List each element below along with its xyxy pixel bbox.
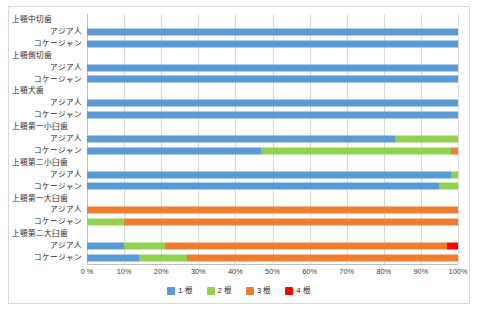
category-label: コケージャン [9,109,87,121]
stacked-bar [87,64,458,71]
bar-segment-4 [447,242,458,249]
bar-segment-1 [87,28,458,35]
stacked-bar [87,112,458,119]
stacked-bar [87,242,458,249]
bar-row: コケージャン [87,216,458,228]
plot-area: 上顎中切歯アジア人コケージャン上顎側切歯アジア人コケージャン上顎犬歯アジア人コケ… [87,14,458,264]
category-label: アジア人 [9,204,87,216]
stacked-bar [87,207,458,214]
legend-item-2[interactable]: 2 根 [207,287,232,295]
bar-row: コケージャン [87,180,458,192]
bar-row: コケージャン [87,73,458,85]
bar-row: アジア人 [87,62,458,74]
category-label: アジア人 [9,97,87,109]
bar-group-header: 上顎第二大臼歯 [87,228,458,240]
chart-legend: 1 根2 根3 根4 根 [9,285,469,297]
category-label: アジア人 [9,62,87,74]
bar-segment-3 [87,207,458,214]
bar-segment-2 [87,219,124,226]
x-axis-tick-labels: 0 %10%20%30%40%50%60%70%80%90%100% [87,266,458,278]
category-label: コケージャン [9,216,87,228]
legend-label: 3 根 [257,287,271,295]
x-tick-label: 80% [376,266,391,278]
bar-row: アジア人 [87,97,458,109]
bar-segment-1 [87,76,458,83]
bar-segment-1 [87,112,458,119]
bar-segment-1 [87,171,451,178]
x-tick-label: 100% [449,266,468,278]
stacked-bar [87,76,458,83]
group-label: 上顎第一小臼歯 [9,121,87,133]
x-tick-label: 20% [154,266,169,278]
x-axis-line [87,264,458,265]
bar-segment-2 [395,135,458,142]
stacked-bar [87,100,458,107]
bar-segment-2 [261,147,450,154]
bar-segment-3 [451,147,458,154]
group-label: 上顎第二大臼歯 [9,228,87,240]
bar-segment-2 [124,242,165,249]
x-tick-label: 10% [117,266,132,278]
stacked-bar [87,40,458,47]
bar-segment-2 [439,183,458,190]
bar-row: コケージャン [87,109,458,121]
bar-group-header: 上顎犬歯 [87,85,458,97]
bar-segment-1 [87,147,261,154]
bar-rows: 上顎中切歯アジア人コケージャン上顎側切歯アジア人コケージャン上顎犬歯アジア人コケ… [87,14,458,264]
x-tick-label: 40% [228,266,243,278]
legend-swatch-icon [246,287,254,295]
bar-segment-1 [87,254,139,261]
bar-segment-2 [139,254,187,261]
stacked-bar [87,219,458,226]
x-tick-label: 0 % [81,266,94,278]
bar-group-header: 上顎第一大臼歯 [87,192,458,204]
group-label: 上顎第二小臼歯 [9,157,87,169]
x-tick-label: 60% [302,266,317,278]
bar-segment-1 [87,40,458,47]
x-tick-label: 90% [413,266,428,278]
bar-row: コケージャン [87,145,458,157]
stacked-bar [87,171,458,178]
category-label: アジア人 [9,26,87,38]
stacked-bar [87,135,458,142]
bar-row: アジア人 [87,204,458,216]
legend-swatch-icon [167,287,175,295]
bar-group-header: 上顎第一小臼歯 [87,121,458,133]
category-label: アジア人 [9,133,87,145]
stacked-bar [87,28,458,35]
bar-segment-2 [451,171,458,178]
bar-group-header: 上顎側切歯 [87,50,458,62]
bar-row: アジア人 [87,240,458,252]
bar-segment-3 [165,242,447,249]
legend-item-3[interactable]: 3 根 [246,287,271,295]
bar-row: コケージャン [87,38,458,50]
bar-row: アジア人 [87,133,458,145]
stacked-bar [87,254,458,261]
legend-label: 2 根 [218,287,232,295]
bar-segment-1 [87,135,395,142]
chart-frame: 上顎中切歯アジア人コケージャン上顎側切歯アジア人コケージャン上顎犬歯アジア人コケ… [8,6,470,304]
stacked-bar [87,183,458,190]
legend-item-4[interactable]: 4 根 [285,287,310,295]
stacked-bar [87,147,458,154]
legend-item-1[interactable]: 1 根 [167,287,192,295]
bar-segment-3 [187,254,458,261]
x-tick-label: 70% [339,266,354,278]
x-tick-label: 30% [191,266,206,278]
bar-segment-1 [87,100,458,107]
bar-group-header: 上顎中切歯 [87,14,458,26]
category-label: アジア人 [9,169,87,181]
category-label: コケージャン [9,252,87,264]
legend-swatch-icon [207,287,215,295]
bar-group-header: 上顎第二小臼歯 [87,157,458,169]
legend-swatch-icon [285,287,293,295]
bar-segment-1 [87,242,124,249]
gridline-100 [458,14,459,264]
category-label: コケージャン [9,38,87,50]
bar-segment-3 [124,219,458,226]
category-label: コケージャン [9,145,87,157]
group-label: 上顎第一大臼歯 [9,192,87,204]
category-label: アジア人 [9,240,87,252]
legend-label: 1 根 [178,287,192,295]
category-label: コケージャン [9,180,87,192]
